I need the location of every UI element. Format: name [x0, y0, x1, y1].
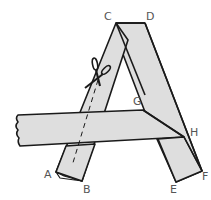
label-c: C — [104, 10, 112, 23]
label-h: H — [190, 126, 198, 139]
label-e: E — [170, 183, 177, 196]
label-b: B — [83, 183, 91, 196]
label-g: G — [133, 95, 142, 108]
label-f: F — [202, 170, 208, 183]
right-leg-lower — [158, 137, 202, 182]
label-d: D — [146, 10, 154, 23]
label-a: A — [44, 168, 52, 181]
folded-strip-letter-a-diagram: C D G H A B E F — [0, 0, 211, 200]
